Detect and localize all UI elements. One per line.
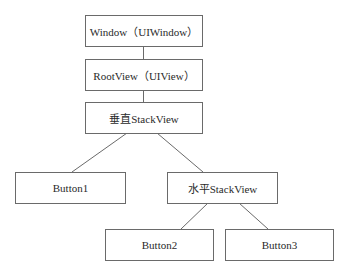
node-button1-label: Button1	[53, 182, 88, 194]
node-horizontal-stackview-label: 水平StackView	[188, 180, 258, 196]
edge-hstack-button2	[181, 203, 208, 229]
view-hierarchy-diagram: Window（UIWindow） RootView（UIView） 垂直Stac…	[0, 0, 346, 275]
node-button3-label: Button3	[262, 239, 297, 251]
node-window-label: Window（UIWindow）	[90, 23, 199, 39]
node-rootview-label: RootView（UIView）	[93, 67, 194, 83]
node-button2-label: Button2	[142, 239, 177, 251]
edge-vstack-hstack	[157, 133, 203, 172]
node-button1: Button1	[15, 172, 126, 204]
node-vertical-stackview-label: 垂直StackView	[109, 110, 179, 126]
node-vertical-stackview: 垂直StackView	[85, 102, 203, 134]
edge-hstack-button3	[239, 203, 268, 229]
node-button3: Button3	[225, 229, 334, 261]
edge-vstack-button1	[72, 133, 127, 172]
node-rootview: RootView（UIView）	[85, 59, 203, 91]
node-window: Window（UIWindow）	[85, 15, 203, 47]
node-button2: Button2	[105, 229, 214, 261]
node-horizontal-stackview: 水平StackView	[167, 172, 278, 204]
